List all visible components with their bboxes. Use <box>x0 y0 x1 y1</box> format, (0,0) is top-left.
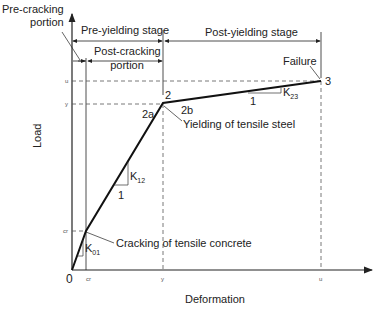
pre-cracking-line2: portion <box>2 17 64 28</box>
k12-subscript: 12 <box>137 177 145 184</box>
x-axis-title: Deformation <box>185 294 245 305</box>
x-tick-y: y <box>161 276 164 282</box>
k23-run-label: 1 <box>250 96 256 107</box>
k23-subscript: 23 <box>290 93 298 100</box>
post-yielding-label: Post-yielding stage <box>205 27 298 38</box>
pre-cracking-label: Pre-cracking portion <box>2 4 64 28</box>
k01-subscript: 01 <box>92 249 100 256</box>
x-tick-cr: cr <box>86 276 91 282</box>
failure-annotation: Failure <box>283 56 317 67</box>
origin-label: 0 <box>66 273 73 285</box>
y-tick-cr: cr <box>63 228 68 234</box>
cracking-annotation: Cracking of tensile concrete <box>116 238 252 249</box>
yielding-annotation: Yielding of tensile steel <box>183 119 295 130</box>
post-cracking-label: Post-cracking portion <box>94 46 160 71</box>
point-2-label: 2 <box>165 90 171 101</box>
k23-label: K23 <box>283 87 298 100</box>
pre-cracking-leader <box>62 32 80 60</box>
point-2a-label: 2a <box>142 109 154 120</box>
post-cracking-line1: Post-cracking <box>94 46 160 57</box>
y-tick-y: y <box>65 101 68 107</box>
slope-triangles <box>77 88 281 256</box>
k12-run-label: 1 <box>118 190 124 201</box>
k12-label: K12 <box>130 171 145 184</box>
y-axis-title: Load <box>32 124 43 148</box>
pre-cracking-line1: Pre-cracking <box>2 4 64 15</box>
y-tick-u: u <box>65 78 68 84</box>
x-tick-u: u <box>319 276 322 282</box>
k01-label: K01 <box>85 243 100 256</box>
load-deformation-diagram <box>0 0 377 310</box>
post-cracking-line2: portion <box>94 60 160 71</box>
point-3-label: 3 <box>325 76 331 87</box>
point-2b-label: 2b <box>181 105 193 116</box>
pre-yielding-label: Pre-yielding stage <box>81 25 169 36</box>
